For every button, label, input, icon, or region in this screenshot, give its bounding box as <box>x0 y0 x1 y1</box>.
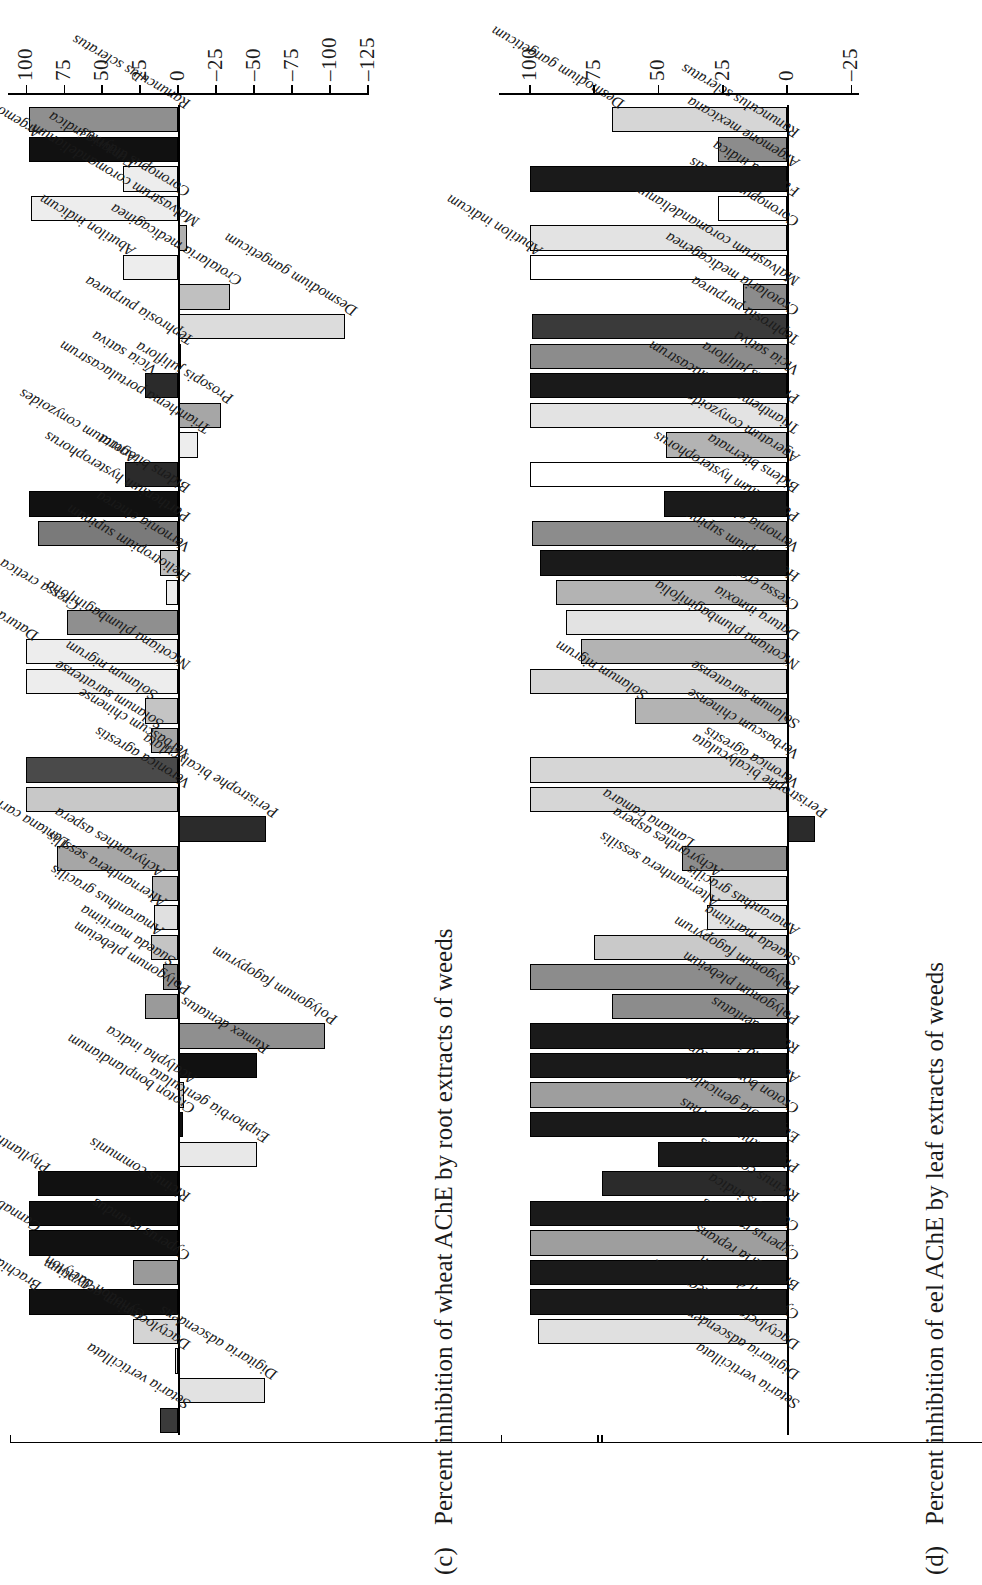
species-label: Cynodon dactylon <box>40 1252 147 1324</box>
axis-tick-label: –75 <box>279 0 304 81</box>
species-label: Abutilon indicum <box>37 191 139 260</box>
axis-tick <box>101 85 103 95</box>
axis-tick-label: 25 <box>710 0 735 81</box>
species-label: Rumex dentatus <box>178 994 272 1059</box>
species-label: Polygonum fagopyrum <box>209 942 341 1028</box>
axis-tick-label: –25 <box>203 0 228 81</box>
axis-tick <box>215 85 217 95</box>
axis-tick-label: –100 <box>317 0 342 81</box>
axis-tick <box>851 85 853 95</box>
axis-d: Setaria verticillataDigitaria adscendens… <box>499 105 859 1435</box>
axis-tick-label: –50 <box>241 0 266 81</box>
axis-caption-c: Percent inhibition of wheat AChE by root… <box>430 929 458 1525</box>
chart-panel-c: Setaria verticillataDigitaria adscendens… <box>0 0 491 1585</box>
species-label: Cannabis indica <box>0 1169 44 1236</box>
axis-tick-label: 50 <box>89 0 114 81</box>
panel-label-c: (c) <box>430 1547 458 1575</box>
group-bracket <box>501 1442 982 1443</box>
species-label: Brachiaria reptans <box>0 1220 44 1295</box>
axis-tick-label: –125 <box>355 0 380 81</box>
axis-tick <box>177 85 179 95</box>
figure-root: Setaria verticillataDigitaria adscendens… <box>0 0 982 1585</box>
axis-tick-label: 50 <box>645 0 670 81</box>
axis-tick <box>253 85 255 95</box>
axis-tick <box>658 85 660 95</box>
axis-tick <box>367 85 369 95</box>
axis-tick <box>529 85 531 95</box>
panel-label-d: (d) <box>921 1546 949 1575</box>
value-axis-line <box>499 93 859 95</box>
group-bracket-cap <box>501 1435 502 1443</box>
axis-caption-d: Percent inhibition of eel AChE by leaf e… <box>921 962 949 1525</box>
axis-tick <box>291 85 293 95</box>
axis-tick <box>139 85 141 95</box>
axis-tick-label: 0 <box>774 0 799 81</box>
axis-tick-label: 75 <box>581 0 606 81</box>
axis-tick <box>722 85 724 95</box>
species-label: Phyllanthus fraternus <box>0 1094 53 1177</box>
group-bracket-cap <box>10 1435 11 1443</box>
axis-tick-label: 0 <box>165 0 190 81</box>
axis-tick-label: 100 <box>517 0 542 81</box>
axis-tick <box>329 85 331 95</box>
value-axis-line <box>8 93 368 95</box>
species-label: Euphorbia geniculata <box>146 1064 272 1147</box>
axis-tick-label: 75 <box>51 0 76 81</box>
plot-area-c: Setaria verticillataDigitaria adscendens… <box>8 105 368 1435</box>
axis-tick <box>786 85 788 95</box>
axis-tick-label: –25 <box>838 0 863 81</box>
axis-tick-label: 25 <box>127 0 152 81</box>
axis-tick <box>593 85 595 95</box>
axis-tick <box>26 85 28 95</box>
species-label: Ricinus communis <box>86 1134 193 1206</box>
axis-c: Setaria verticillataDigitaria adscendens… <box>8 105 368 1435</box>
species-label: Solanum nigrum <box>552 637 650 704</box>
species-label: Cressa cretica <box>0 555 82 615</box>
plot-area-d: Setaria verticillataDigitaria adscendens… <box>499 105 859 1435</box>
species-label: Desmodium gangeticum <box>488 22 627 113</box>
axis-tick-label: 100 <box>13 0 38 81</box>
chart-panel-d: Setaria verticillataDigitaria adscendens… <box>491 0 982 1585</box>
axis-tick <box>64 85 66 95</box>
